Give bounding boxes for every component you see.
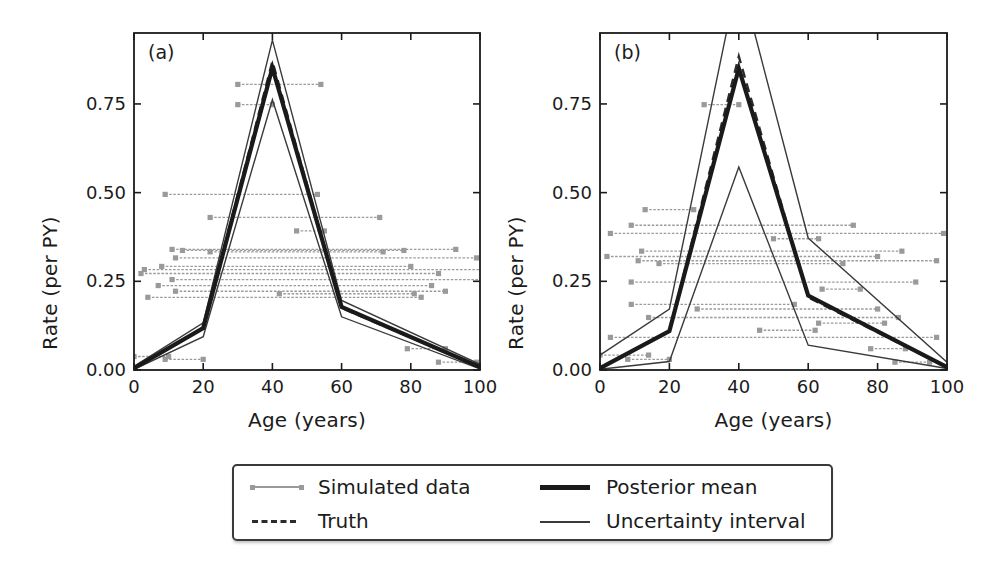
legend-item-uncertainty-interval: Uncertainty interval [536,506,805,536]
simulated-data-marker [646,315,651,320]
simulated-data-marker [851,223,856,228]
legend-label-truth: Truth [318,509,369,533]
simulated-data-marker [771,236,776,241]
simulated-data-marker [315,192,320,197]
series-uncertainty-interval-lower [134,100,480,370]
simulated-data-marker [208,249,213,254]
simulated-data-marker [443,289,448,294]
simulated-data-marker [408,264,413,269]
series-uncertainty-interval-upper [134,40,480,366]
simulated-data-marker [941,231,946,236]
legend-item-truth: Truth [248,506,369,536]
x-tick-label: 60 [778,376,838,397]
simulated-data-marker [401,248,406,253]
simulated-data-marker [145,295,150,300]
simulated-data-marker [453,247,458,252]
simulated-data-marker [868,346,873,351]
y-axis-label: Rate (per PY) [38,216,62,350]
simulated-data-marker [377,215,382,220]
simulated-data-marker [819,287,824,292]
legend: Simulated data Truth Posterior mean Unce… [232,464,833,541]
simulated-data-marker [381,249,386,254]
y-tick-label: 0.75 [528,93,592,114]
simulated-data-marker [702,102,707,107]
simulated-data-marker [934,335,939,340]
simulated-data-marker [858,287,863,292]
simulated-data-marker [235,82,240,87]
x-tick-label: 80 [848,376,908,397]
simulated-data-marker [277,291,282,296]
simulated-data-marker [691,207,696,212]
simulated-data-marker [201,357,206,362]
y-tick-label: 0.50 [62,182,126,203]
simulated-data-marker [882,321,887,326]
simulated-data-marker [405,346,410,351]
series-posterior-mean [600,68,947,368]
simulated-data-marker [235,102,240,107]
simulated-data-group [131,82,486,365]
legend-item-posterior-mean: Posterior mean [536,472,757,502]
panel-tag-b: (b) [614,41,641,63]
simulated-data-marker [604,254,609,259]
simulated-data-marker [436,360,441,365]
x-tick-label: 80 [381,376,441,397]
simulated-data-marker [629,279,634,284]
x-axis-label: Age (years) [600,408,947,432]
y-axis-label: Rate (per PY) [504,216,528,350]
simulated-data-marker [813,328,818,333]
simulated-data-marker [695,306,700,311]
simulated-data-marker [656,261,661,266]
legend-label-uncertainty-interval: Uncertainty interval [606,509,805,533]
simulated-data-marker [625,357,630,362]
plot-area [597,0,947,369]
legend-item-simulated-data: Simulated data [248,472,470,502]
simulated-data-marker [180,248,185,253]
chart-panel-b: (b)0204060801000.000.250.500.75Age (year… [466,0,997,450]
y-tick-label: 0.75 [62,93,126,114]
simulated-data-marker [736,102,741,107]
legend-label-simulated-data: Simulated data [318,475,470,499]
simulated-data-marker [419,295,424,300]
simulated-data-marker [840,261,845,266]
y-tick-label: 0.00 [528,359,592,380]
simulated-data-line-icon [248,476,306,498]
legend-label-posterior-mean: Posterior mean [606,475,757,499]
simulated-data-marker [169,277,174,282]
simulated-data-marker [294,228,299,233]
simulated-data-marker [156,283,161,288]
simulated-data-marker [208,215,213,220]
simulated-data-marker [163,357,168,362]
simulated-data-marker [629,302,634,307]
figure-root: (a)0204060801000.000.250.500.75Age (year… [0,0,997,571]
x-tick-label: 20 [639,376,699,397]
plot-area [131,40,486,369]
plot-frame [134,33,480,370]
simulated-data-marker [639,249,644,254]
panel-tag-a: (a) [148,41,174,63]
simulated-data-marker [629,223,634,228]
x-tick-label: 60 [312,376,372,397]
y-tick-label: 0.25 [528,270,592,291]
simulated-data-marker [138,271,143,276]
y-tick-label: 0.00 [62,359,126,380]
uncertainty-interval-line-icon [536,510,594,532]
simulated-data-marker [159,264,164,269]
x-tick-label: 40 [709,376,769,397]
simulated-data-marker [875,254,880,259]
plot-frame [600,33,947,370]
simulated-data-marker [173,289,178,294]
simulated-data-marker [173,255,178,260]
simulated-data-marker [636,258,641,263]
simulated-data-marker [646,353,651,358]
x-tick-label: 40 [242,376,302,397]
truth-dashed-line-icon [248,510,306,532]
simulated-data-marker [429,283,434,288]
simulated-data-marker [757,328,762,333]
simulated-data-marker [436,271,441,276]
y-tick-label: 0.50 [528,182,592,203]
simulated-data-marker [816,236,821,241]
chart-panel-a: (a)0204060801000.000.250.500.75Age (year… [0,0,500,450]
x-axis-label: Age (years) [134,408,480,432]
simulated-data-marker [643,207,648,212]
simulated-data-marker [816,321,821,326]
